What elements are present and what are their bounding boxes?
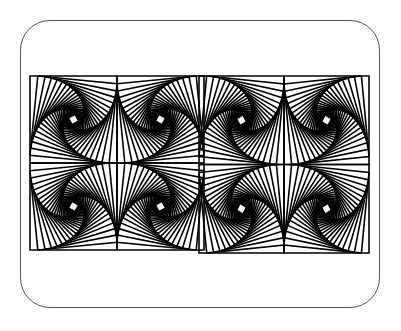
spiral-square — [217, 95, 265, 145]
spiral-square — [203, 80, 281, 161]
spiral-square — [217, 184, 265, 234]
spiral-square — [34, 167, 114, 247]
spiral-square — [136, 182, 185, 231]
spiral-square — [203, 168, 281, 249]
spiral-square — [288, 80, 366, 161]
spiral-square — [136, 95, 185, 144]
spiral-square — [34, 80, 114, 160]
spiral-square — [49, 95, 98, 144]
spiral-square — [121, 80, 201, 160]
spiral-square — [302, 95, 350, 145]
spiral-square — [121, 167, 201, 247]
spiral-square — [302, 184, 350, 234]
spiral-square — [49, 182, 98, 231]
whirl-artwork — [0, 0, 401, 331]
spiral-square — [288, 168, 366, 249]
